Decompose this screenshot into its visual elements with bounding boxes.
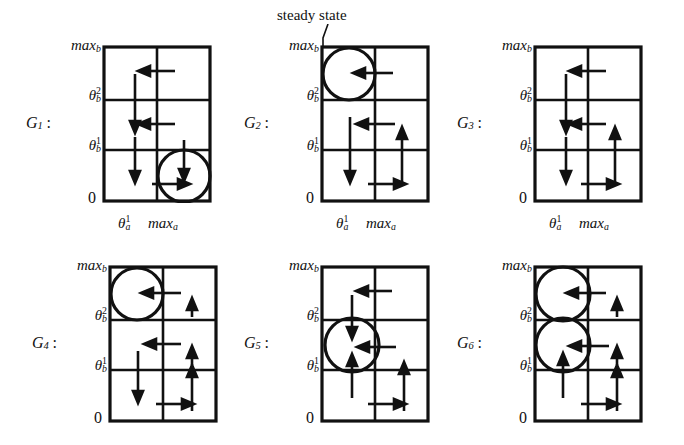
panel-G1-ytick-theta2: θ2b [56, 88, 96, 103]
panel-G5 [320, 265, 430, 423]
panel-G6 [533, 265, 643, 423]
panel-G1-xtick-theta: θ1a [118, 216, 125, 231]
panel-G3-ytick-maxb: maxb [467, 38, 527, 53]
panel-G4-grid [108, 265, 218, 423]
panel-G4-ytick-maxb: maxb [42, 258, 102, 273]
panel-G3 [533, 45, 643, 203]
panel-G3-xtick-theta: θ1a [549, 216, 556, 231]
panel-G2-grid [320, 45, 430, 203]
panel-G6-ytick-theta2: θ2b [487, 308, 527, 323]
panel-G1-label: G1: [26, 115, 51, 131]
panel-G1-grid [102, 45, 212, 203]
panel-G6-grid [533, 265, 643, 423]
panel-G1-ytick-theta1: θ1b [56, 138, 96, 153]
panel-G4-ytick-theta2: θ2b [62, 308, 102, 323]
panel-G6-ytick-zero: 0 [509, 410, 527, 426]
panel-G2-ytick-zero: 0 [296, 190, 314, 206]
panel-G4-label: G4: [32, 335, 57, 351]
panel-G1 [102, 45, 212, 203]
panel-G6-ytick-maxb: maxb [467, 258, 527, 273]
panel-G3-xtick-max: maxa [579, 216, 604, 231]
panel-G4 [108, 265, 218, 423]
panel-G2-ytick-theta2: θ2b [274, 88, 314, 103]
panel-G3-ytick-theta2: θ2b [487, 88, 527, 103]
panel-G5-grid [320, 265, 430, 423]
panel-G5-ytick-zero: 0 [296, 410, 314, 426]
panel-G2-xtick-theta: θ1a [336, 216, 343, 231]
panel-G5-ytick-maxb: maxb [254, 258, 314, 273]
steady-state-label: steady state [277, 8, 347, 23]
panel-G4-ytick-theta1: θ1b [62, 358, 102, 373]
panel-G3-grid [533, 45, 643, 203]
panel-G1-ytick-maxb: maxb [36, 38, 96, 53]
panel-G2-xtick-max: maxa [366, 216, 391, 231]
panel-G2-ytick-theta1: θ1b [274, 138, 314, 153]
panel-G1-ytick-zero: 0 [78, 190, 96, 206]
panel-G6-ytick-theta1: θ1b [487, 358, 527, 373]
panel-G6-label: G6: [457, 335, 482, 351]
panel-G3-ytick-theta1: θ1b [487, 138, 527, 153]
panel-G2-ytick-maxb: maxb [254, 38, 314, 53]
panel-G2 [320, 45, 430, 203]
panel-G4-ytick-zero: 0 [84, 410, 102, 426]
figure-root: steady state [0, 0, 684, 445]
panel-G3-ytick-zero: 0 [509, 190, 527, 206]
panel-G5-label: G5: [244, 335, 269, 351]
panel-G5-ytick-theta1: θ1b [274, 358, 314, 373]
panel-G1-xtick-max: maxa [148, 216, 173, 231]
panel-G2-label: G2: [244, 115, 269, 131]
panel-G3-label: G3: [457, 115, 482, 131]
panel-G5-ytick-theta2: θ2b [274, 308, 314, 323]
